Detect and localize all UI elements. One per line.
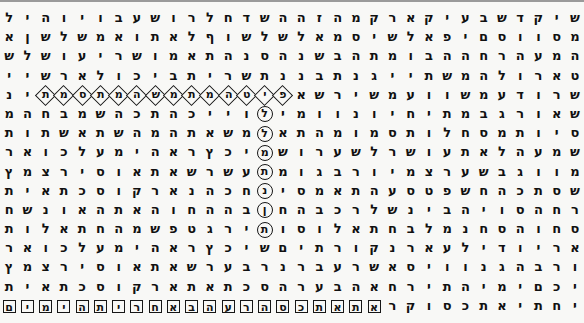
letter-cell: ר — [329, 85, 347, 104]
letter-glyph: י — [7, 66, 11, 85]
letter-glyph: ו — [335, 104, 339, 123]
letter-glyph: א — [368, 300, 381, 313]
letter-glyph: ת — [187, 277, 196, 296]
letter-cell: ו — [110, 277, 128, 296]
letter-glyph: ה — [516, 142, 525, 161]
letter-glyph: ה — [461, 277, 470, 296]
letter-cell: נ — [383, 238, 401, 257]
letter-glyph: ו — [427, 123, 431, 142]
letter-glyph: ו — [372, 104, 376, 123]
letter-glyph: מ — [570, 27, 579, 46]
letter-glyph: מ — [369, 123, 378, 142]
letter-cell: ו — [55, 46, 73, 65]
letter-glyph: ש — [150, 8, 160, 27]
letter-glyph-inner: מ — [112, 89, 125, 101]
letter-cell: צ — [37, 162, 55, 181]
letter-cell: ר — [183, 142, 201, 161]
letter-glyph: ש — [187, 257, 197, 276]
letter-glyph: ח — [552, 296, 561, 315]
letter-cell: ר — [347, 162, 365, 181]
letter-cell: ל — [365, 142, 383, 161]
letter-glyph: ו — [25, 219, 29, 238]
letter-cell: ש — [566, 104, 584, 123]
letter-cell: ב — [310, 200, 328, 219]
letter-cell: א — [18, 142, 36, 161]
letter-cell: י — [128, 142, 146, 161]
letter-cell: א — [164, 27, 182, 46]
letter-cell: ו — [365, 104, 383, 123]
box-marked-letter: י — [55, 296, 73, 315]
letter-cell: ת — [146, 104, 164, 123]
letter-cell: ק — [529, 8, 547, 27]
letter-glyph: ל — [5, 8, 13, 27]
letter-glyph: מ — [479, 85, 488, 104]
letter-cell: ו — [55, 8, 73, 27]
letter-cell: י — [237, 238, 255, 257]
letter-cell: נ — [274, 257, 292, 276]
letter-cell: ק — [420, 8, 438, 27]
letter-glyph: ב — [443, 200, 451, 219]
letter-cell: ה — [493, 181, 511, 200]
letter-cell: ש — [256, 238, 274, 257]
letter-cell: י — [383, 162, 401, 181]
letter-cell: ר — [0, 238, 18, 257]
letter-glyph: ש — [387, 27, 397, 46]
letter-glyph: צ — [425, 162, 434, 181]
letter-glyph: ל — [23, 46, 31, 65]
letter-cell: י — [237, 142, 255, 161]
letter-glyph: מ — [333, 27, 342, 46]
letter-glyph: ס — [497, 27, 506, 46]
letter-cell: ש — [0, 46, 18, 65]
letter-glyph: ו — [427, 142, 431, 161]
letter-glyph: ה — [96, 200, 105, 219]
letter-cell: י — [511, 277, 529, 296]
letter-cell: ש — [183, 162, 201, 181]
letter-cell: ש — [18, 200, 36, 219]
letter-glyph: י — [244, 219, 248, 238]
letter-cell: י — [548, 8, 566, 27]
letter-cell: מ — [493, 123, 511, 142]
letter-cell: ה — [146, 238, 164, 257]
letter-glyph: ר — [297, 257, 305, 276]
letter-glyph: ה — [351, 277, 360, 296]
letter-cell: ר — [548, 238, 566, 257]
letter-glyph: א — [351, 219, 360, 238]
letter-glyph: ה — [258, 300, 271, 313]
letter-glyph: מ — [351, 8, 360, 27]
letter-cell: ה — [128, 123, 146, 142]
letter-glyph: ר — [407, 277, 415, 296]
letter-cell: ב — [329, 46, 347, 65]
letter-glyph: ו — [116, 277, 120, 296]
box-marked-letter: א — [164, 296, 182, 315]
circle-marked-letter: ת — [256, 162, 274, 181]
letter-cell: ה — [347, 277, 365, 296]
letter-cell: ח — [548, 200, 566, 219]
letter-glyph: י — [57, 300, 70, 313]
letter-cell: א — [128, 162, 146, 181]
letter-glyph: ס — [406, 181, 415, 200]
letter-cell: ש — [566, 181, 584, 200]
letter-glyph: א — [278, 123, 287, 142]
letter-cell: ר — [383, 296, 401, 315]
letter-glyph: ר — [534, 66, 542, 85]
letter-glyph: א — [167, 300, 180, 313]
letter-glyph: ג — [207, 219, 213, 238]
letter-cell: ו — [456, 257, 474, 276]
letter-cell: ש — [456, 181, 474, 200]
letter-glyph: ב — [115, 8, 123, 27]
letter-cell: ש — [146, 8, 164, 27]
letter-cell: ש — [274, 142, 292, 161]
letter-glyph: ם — [534, 277, 543, 296]
letter-cell: מ — [438, 219, 456, 238]
letter-glyph: מ — [552, 142, 561, 161]
letter-glyph: ל — [257, 126, 273, 142]
letter-glyph: י — [463, 27, 467, 46]
letter-cell: ת — [529, 296, 547, 315]
letter-glyph: ס — [497, 219, 506, 238]
letter-cell: ר — [493, 46, 511, 65]
letter-glyph: מ — [296, 104, 305, 123]
letter-cell: ת — [201, 46, 219, 65]
letter-glyph: ר — [407, 238, 415, 257]
letter-glyph: ט — [424, 181, 433, 200]
letter-glyph: א — [132, 257, 141, 276]
